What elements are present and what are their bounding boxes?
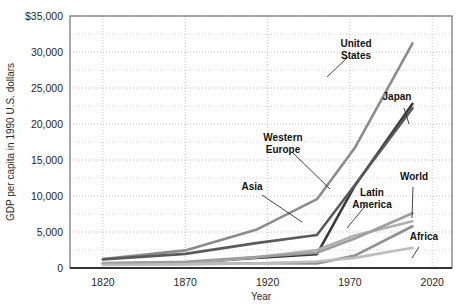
x-axis-title: Year [251, 291, 272, 302]
y-tick-label: 20,000 [31, 118, 63, 130]
label-line: Western [263, 132, 302, 143]
y-tick-label: 0 [57, 262, 63, 274]
x-axis-tick-labels: 18201870192019702020 [91, 276, 444, 288]
x-tick-label: 1970 [338, 276, 362, 288]
label-line: Asia [241, 181, 263, 192]
series-label-japan: Japan [383, 91, 412, 102]
x-tick-label: 1920 [256, 276, 280, 288]
chart-container: 05,00010,00015,00020,00025,00030,000$35,… [0, 0, 473, 306]
series-label-world: World [400, 171, 428, 182]
series-label-africa: Africa [410, 231, 439, 242]
y-tick-label: 5,000 [37, 226, 63, 238]
y-tick-label: 30,000 [31, 46, 63, 58]
label-line: America [352, 199, 392, 210]
label-line: United [340, 38, 371, 49]
gdp-per-capita-line-chart: 05,00010,00015,00020,00025,00030,000$35,… [0, 0, 473, 306]
label-line: Europe [266, 144, 301, 155]
x-tick-label: 2020 [421, 276, 445, 288]
label-line: Latin [360, 187, 384, 198]
y-tick-label: 10,000 [31, 190, 63, 202]
series-label-asia: Asia [241, 181, 263, 192]
y-tick-label: $35,000 [25, 10, 63, 22]
y-tick-label: 15,000 [31, 154, 63, 166]
series-label-western-europe: WesternEurope [263, 132, 302, 155]
y-axis-tick-labels: 05,00010,00015,00020,00025,00030,000$35,… [25, 10, 63, 274]
x-tick-label: 1820 [91, 276, 115, 288]
series-label-united-states: UnitedStates [340, 38, 371, 61]
x-tick-label: 1870 [174, 276, 198, 288]
label-line: Africa [410, 231, 439, 242]
label-line: Japan [383, 91, 412, 102]
label-line: States [341, 50, 371, 61]
label-line: World [400, 171, 428, 182]
y-tick-label: 25,000 [31, 82, 63, 94]
y-axis-title: GDP per capita in 1990 U.S. dollars [5, 63, 16, 221]
